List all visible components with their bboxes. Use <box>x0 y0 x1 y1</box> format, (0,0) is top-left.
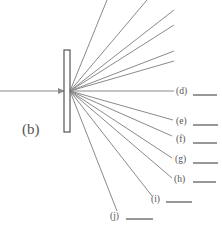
answer-blanks <box>126 95 218 219</box>
labeled-diffraction-rays <box>70 91 174 211</box>
diffraction-ray <box>70 91 173 120</box>
diffraction-grating <box>64 50 70 132</box>
diffraction-ray <box>70 61 174 91</box>
order-label: (d) <box>176 86 187 97</box>
order-label: (j) <box>110 211 119 222</box>
order-label: (e) <box>176 116 187 127</box>
diffraction-ray <box>70 0 147 91</box>
diffraction-ray <box>70 51 174 91</box>
order-label: (g) <box>175 154 186 165</box>
panel-label: (b) <box>22 121 40 138</box>
order-label: (h) <box>174 174 185 185</box>
diffraction-ray <box>70 91 172 178</box>
diffraction-ray <box>70 91 152 196</box>
diffraction-ray <box>70 10 174 91</box>
diffraction-ray <box>70 91 172 158</box>
unlabeled-diffraction-rays <box>70 0 174 91</box>
diffraction-grating-diagram: (b) (d)(e)(f)(g)(h)(i)(j) <box>0 0 222 241</box>
diffraction-ray <box>70 25 174 91</box>
order-label: (i) <box>151 194 160 205</box>
diffraction-ray <box>70 0 107 91</box>
order-label: (f) <box>176 134 186 145</box>
